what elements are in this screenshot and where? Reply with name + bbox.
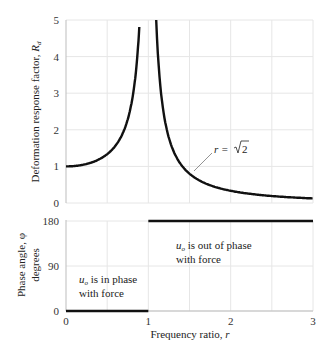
rd-curve-right-branch: [156, 20, 312, 198]
svg-text:0: 0: [63, 315, 69, 327]
bottom-y-axis-title-line2: degrees: [29, 248, 41, 282]
svg-text:180: 180: [43, 215, 60, 227]
svg-text:1: 1: [146, 315, 152, 327]
svg-text:90: 90: [48, 260, 60, 272]
rd-curve-left-branch: [66, 27, 139, 166]
x-axis-title: Frequency ratio, r: [150, 328, 230, 340]
svg-text:3: 3: [310, 315, 316, 327]
svg-text:1: 1: [54, 160, 60, 172]
svg-text:0: 0: [54, 197, 60, 209]
bottom-y-tick-labels: 090180: [43, 215, 60, 317]
top-y-tick-labels: 012345: [54, 14, 60, 209]
svg-text:5: 5: [54, 14, 60, 26]
sqrt2-annotation: r =: [214, 143, 228, 155]
bottom-y-axis-title-line1: Phase angle, φ: [15, 233, 27, 297]
svg-text:3: 3: [54, 87, 60, 99]
annotation-leader-line: [194, 153, 212, 171]
svg-text:2: 2: [54, 124, 60, 136]
svg-text:0: 0: [54, 305, 60, 317]
svg-text:4: 4: [54, 51, 60, 63]
top-y-axis-title: Deformation response factor, Rd: [29, 41, 43, 183]
out-of-phase-label-line1: uo is out of phase: [176, 239, 252, 253]
sqrt2-radicand: 2: [242, 143, 248, 155]
out-of-phase-label-line2: with force: [176, 253, 221, 265]
in-phase-label-line1: uo is in phase: [79, 273, 137, 287]
top-panel-gridlines: [66, 20, 313, 203]
figure: 012345 090180 0123 r = 2 uo is out of ph…: [0, 0, 332, 363]
x-tick-labels: 0123: [63, 315, 316, 327]
in-phase-label-line2: with force: [79, 287, 124, 299]
svg-text:2: 2: [228, 315, 234, 327]
